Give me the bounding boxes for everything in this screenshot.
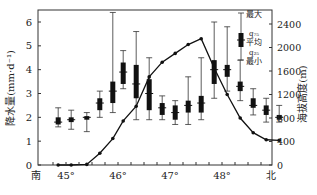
elevation-point xyxy=(69,163,73,167)
elevation-point xyxy=(251,131,255,135)
box-plot xyxy=(119,51,127,89)
iqr-box xyxy=(84,116,89,120)
elevation-point xyxy=(111,137,115,141)
iqr-box xyxy=(186,101,191,113)
elevation-point xyxy=(160,60,164,64)
box-plot xyxy=(223,27,231,91)
legend-min-label: 最小 xyxy=(246,57,262,66)
iqr-box xyxy=(97,98,102,110)
elevation-point xyxy=(121,119,125,123)
x-label-south: 南 xyxy=(31,169,41,181)
box-plot xyxy=(145,58,153,120)
box-plot xyxy=(158,96,166,120)
box-plot xyxy=(249,89,257,115)
x-label-north: 北 xyxy=(266,170,276,181)
elevation-point xyxy=(186,43,190,47)
y-right-tick-label: 2000 xyxy=(277,42,301,53)
y-right-tick-label: 800 xyxy=(277,113,295,124)
iqr-box xyxy=(134,65,139,98)
iqr-box xyxy=(121,63,126,84)
y-left-tick-label: 0 xyxy=(26,160,32,171)
elevation-point xyxy=(264,138,268,142)
elevation-point xyxy=(56,163,60,167)
y-left-tick-label: 1 xyxy=(26,136,32,147)
elevation-point xyxy=(98,151,102,155)
legend-mean-label: 平均 xyxy=(246,37,262,47)
elevation-point xyxy=(85,163,89,167)
box-plot xyxy=(54,108,62,127)
y-right-tick-label: 2400 xyxy=(277,19,301,30)
y-left-tick-label: 5 xyxy=(26,40,32,51)
elevation-point xyxy=(225,93,229,97)
box-plot xyxy=(67,110,75,129)
y-left-tick-label: 6 xyxy=(26,17,32,28)
legend: 最大q₇₅平均q₂₅最小 xyxy=(237,9,262,66)
precipitation-elevation-chart: 01234560400800120016002000240045°46°47°4… xyxy=(0,0,317,195)
box-plot xyxy=(184,77,192,125)
legend-q25-label: q₂₅ xyxy=(249,49,259,57)
elevation-point xyxy=(238,116,242,120)
x-tick-label: 46° xyxy=(109,170,127,181)
y-left-tick-label: 2 xyxy=(26,112,32,123)
y-left-tick-label: 3 xyxy=(26,88,32,99)
axes: 01234560400800120016002000240045°46°47°4… xyxy=(4,17,308,182)
box-plot xyxy=(236,60,244,101)
elevation-point xyxy=(134,104,138,108)
y-left-tick-label: 4 xyxy=(26,64,32,75)
iqr-box xyxy=(160,103,165,115)
legend-max-label: 最大 xyxy=(246,9,262,19)
iqr-box xyxy=(110,82,115,103)
y-right-tick-label: 0 xyxy=(277,160,283,171)
iqr-box xyxy=(199,96,204,113)
iqr-box xyxy=(225,65,230,77)
y-left-axis-label: 降水量(mm·d⁻¹) xyxy=(4,50,16,126)
iqr-box xyxy=(147,79,152,110)
box-plot xyxy=(83,113,91,132)
plot-border xyxy=(38,10,272,165)
iqr-box xyxy=(251,98,256,108)
box-plot xyxy=(171,101,179,125)
elevation-point xyxy=(212,66,216,70)
x-tick-label: 48° xyxy=(213,170,231,181)
elevation-point xyxy=(147,75,151,79)
box-plot xyxy=(96,91,104,117)
iqr-box xyxy=(56,117,61,124)
elevation-point xyxy=(199,37,203,41)
x-tick-label: 45° xyxy=(57,170,75,181)
legend-q75-label: q₇₅ xyxy=(249,30,259,38)
box-plot xyxy=(262,98,270,122)
box-plot xyxy=(109,12,117,112)
box-plot xyxy=(197,58,205,120)
elevation-point xyxy=(173,52,177,56)
y-right-axis-label: 海拔高度(m) xyxy=(296,65,308,122)
y-right-tick-label: 400 xyxy=(277,136,295,147)
plot-frame xyxy=(38,10,272,165)
x-tick-label: 47° xyxy=(161,170,179,181)
